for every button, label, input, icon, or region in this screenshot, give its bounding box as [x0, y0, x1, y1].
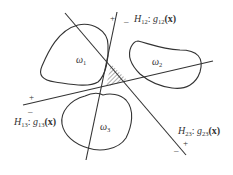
region-omega1-boundary [41, 24, 109, 85]
region-omega3-boundary [62, 93, 132, 150]
hyperplane-h13-line [23, 61, 213, 105]
hyperplane-h23-plus-sign: + [183, 138, 188, 148]
region-omega2-boundary [130, 41, 202, 88]
hyperplane-h23-line [65, 13, 186, 155]
hyperplane-h13-minus-sign: – [27, 106, 33, 116]
region-omega1-label: ω1 [76, 54, 86, 66]
region-omega2-label: ω2 [152, 56, 162, 68]
region-omega3-label: ω3 [100, 121, 110, 133]
hyperplane-h23-label: H23: g23(x) [177, 125, 220, 137]
hyperplane-h12-plus-sign: + [110, 13, 115, 23]
hyperplane-h12-minus-sign: – [123, 16, 129, 26]
hyperplane-h12-label: H12: g12(x) [133, 13, 176, 25]
hyperplane-h12-line [86, 12, 117, 160]
hyperplane-h13-plus-sign: + [29, 92, 34, 102]
decision-boundary-diagram: ω1 ω2 ω3 + – H12: g12(x) + – H13: g13(x)… [0, 0, 233, 175]
hyperplane-h23-minus-sign: – [173, 145, 179, 155]
hyperplane-h13-label: H13: g13(x) [13, 116, 56, 128]
